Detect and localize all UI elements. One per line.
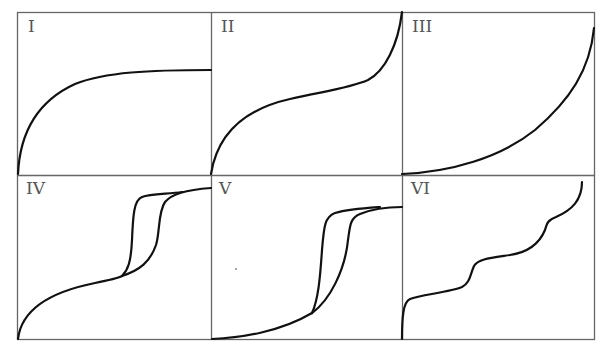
panel-label-3: III	[412, 18, 432, 35]
curve-panel-4-base	[18, 276, 122, 339]
panel-label-2: II	[221, 18, 234, 35]
curve-panel-5-base	[212, 313, 312, 339]
panel-label-5: V	[219, 180, 231, 197]
curve-panel-4-desorption	[122, 192, 182, 276]
stray-mark	[235, 268, 237, 270]
curve-panel-1	[18, 70, 211, 174]
panel-label-1: I	[28, 18, 35, 35]
curve-panel-3	[402, 28, 594, 174]
isotherm-figure	[0, 0, 606, 357]
curve-panel-6	[402, 182, 582, 339]
panel-label-4: IV	[26, 180, 45, 197]
panel-label-6: VI	[411, 180, 430, 197]
curve-panel-5-desorption	[312, 207, 380, 313]
curve-panel-2	[211, 12, 402, 174]
panel-grid	[18, 13, 595, 340]
curve-panel-4-adsorption	[122, 188, 211, 276]
